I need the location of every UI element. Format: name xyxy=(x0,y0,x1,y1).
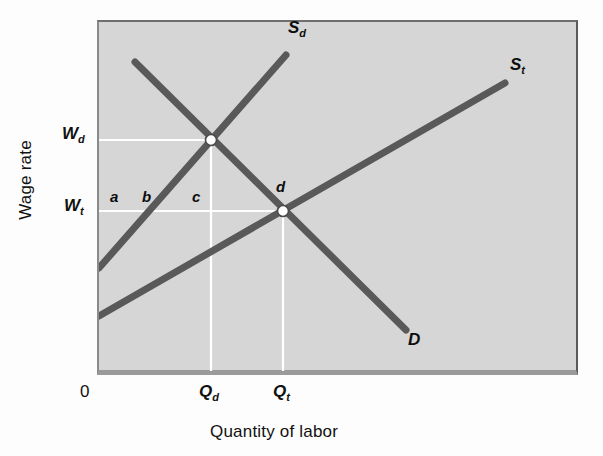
x-tick-qt: Qt xyxy=(273,382,290,403)
x-tick-qd: Qd xyxy=(199,382,219,403)
axis-origin-label: 0 xyxy=(80,382,89,402)
y-tick-wt: Wt xyxy=(64,196,84,217)
labor-market-discrimination-chart: Wage rate Quantity of labor 0 Wd Wt Qd Q… xyxy=(0,0,603,456)
area-label-c: c xyxy=(192,188,200,205)
curve-label-demand: D xyxy=(408,330,420,350)
x-axis-label: Quantity of labor xyxy=(210,422,338,442)
area-label-b: b xyxy=(142,188,151,205)
curve-label-supply-discriminating: Sd xyxy=(288,18,306,39)
y-axis-label: Wage rate xyxy=(16,120,36,240)
curve-label-supply-total: St xyxy=(510,55,525,76)
area-label-a: a xyxy=(110,188,118,205)
plot-area xyxy=(97,20,578,375)
point-label-d: d xyxy=(276,178,285,195)
y-tick-wd: Wd xyxy=(62,124,85,145)
